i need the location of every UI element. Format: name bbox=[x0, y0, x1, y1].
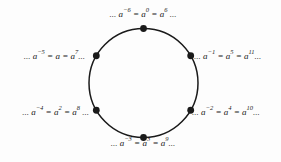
power-label-upper-right: ... a−1 = a5 = a11... bbox=[194, 50, 261, 62]
power-label-lower-left: ... a−4 = a2 = a8 ... bbox=[0, 106, 89, 118]
power-label-upper-left: ... a−5 = a = a7... bbox=[0, 50, 85, 62]
node-dot bbox=[93, 52, 100, 59]
node-dot bbox=[93, 107, 100, 114]
diagram-canvas: ... a−6 = a0 = a6 ... ... a−1 = a5 = a11… bbox=[0, 0, 281, 162]
power-label-top: ... a−6 = a0 = a6 ... bbox=[0, 8, 281, 20]
node-dot bbox=[140, 25, 147, 32]
power-label-lower-right: ... a−2 = a4 = a10... bbox=[192, 106, 260, 118]
circle-outline bbox=[89, 29, 198, 138]
power-label-bottom: ... a−3 = a3 = a9... bbox=[0, 137, 281, 149]
